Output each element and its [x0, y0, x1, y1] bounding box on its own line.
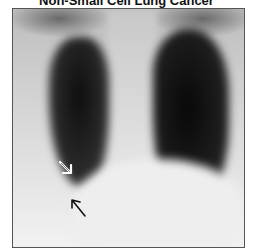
chest-xray-image	[12, 8, 245, 248]
pointer-arrow-icon	[67, 196, 91, 220]
figure-title: Non-Small Cell Lung Cancer	[0, 0, 253, 8]
open-arrow-icon	[57, 159, 81, 183]
heart-shadow	[73, 159, 243, 248]
